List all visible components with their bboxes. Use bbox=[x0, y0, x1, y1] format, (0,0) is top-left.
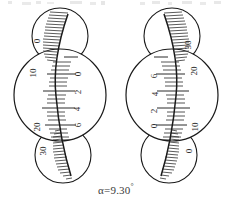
instrument-left: 0 10 20 0 2 4 6 30 bbox=[14, 8, 106, 183]
label-main-4: 4 bbox=[72, 106, 82, 111]
label-main-20: 20 bbox=[189, 66, 199, 76]
label-upper-30: 30 bbox=[183, 40, 193, 50]
label-main-2: 2 bbox=[149, 109, 159, 114]
label-main-4: 4 bbox=[150, 91, 160, 96]
label-main-6: 6 bbox=[149, 73, 159, 78]
label-main-20: 20 bbox=[32, 122, 42, 132]
figure-caption: α=9.30° bbox=[0, 182, 232, 196]
label-main-10: 10 bbox=[28, 68, 38, 78]
label-main-0: 0 bbox=[149, 123, 159, 128]
caption-value: α=9.30 bbox=[98, 184, 130, 196]
label-main-0: 0 bbox=[73, 71, 83, 76]
label-upper-0: 0 bbox=[32, 38, 42, 43]
label-lower-30: 30 bbox=[38, 146, 48, 156]
micrometer-figure: 0 10 20 0 2 4 6 30 bbox=[0, 0, 232, 206]
label-main-6: 6 bbox=[73, 122, 83, 127]
degree-symbol: ° bbox=[131, 182, 134, 191]
label-main-2: 2 bbox=[73, 90, 83, 95]
label-main-10: 10 bbox=[190, 122, 200, 132]
scan-noise-band bbox=[8, 1, 221, 5]
instrument-right: 30 20 10 6 4 2 0 0 bbox=[126, 8, 218, 183]
label-lower-0: 0 bbox=[184, 148, 194, 153]
